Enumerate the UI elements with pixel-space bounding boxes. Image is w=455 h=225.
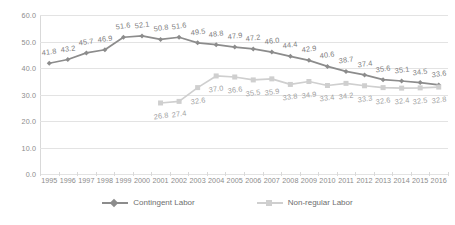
y-axis-tick-label: 0.0 bbox=[26, 170, 36, 179]
data-point-marker bbox=[418, 85, 423, 90]
diamond-marker-icon bbox=[110, 198, 118, 206]
x-axis-ticks: 1995199619971998199920002001200220032004… bbox=[40, 176, 448, 190]
x-axis-tick-label: 2002 bbox=[171, 176, 187, 185]
data-point-marker bbox=[399, 86, 404, 91]
data-point-marker bbox=[325, 83, 330, 88]
data-point-marker bbox=[158, 37, 163, 42]
data-point-marker bbox=[418, 80, 423, 85]
data-point-label: 32.5 bbox=[412, 96, 428, 107]
data-point-marker bbox=[158, 100, 163, 105]
data-point-marker bbox=[195, 85, 200, 90]
data-point-label: 37.4 bbox=[357, 59, 373, 70]
data-point-marker bbox=[214, 42, 219, 47]
x-axis-tick-label: 2008 bbox=[282, 176, 298, 185]
data-point-label: 49.5 bbox=[190, 26, 206, 37]
x-axis-tickmark bbox=[411, 172, 412, 176]
data-point-marker bbox=[399, 78, 404, 83]
data-point-marker bbox=[214, 73, 219, 78]
x-axis-tickmark bbox=[448, 172, 449, 176]
x-axis-tick-label: 2001 bbox=[152, 176, 168, 185]
data-point-label: 47.2 bbox=[245, 33, 261, 44]
legend-swatch bbox=[257, 198, 283, 207]
legend-item[interactable]: Non-regular Labor bbox=[257, 198, 353, 207]
x-axis-tickmark bbox=[59, 172, 60, 176]
x-axis-tick-label: 1997 bbox=[78, 176, 94, 185]
x-axis-tickmark bbox=[337, 172, 338, 176]
x-axis-tick-label: 1999 bbox=[115, 176, 131, 185]
data-point-marker bbox=[325, 64, 330, 69]
x-axis-tick-label: 2014 bbox=[394, 176, 410, 185]
data-point-marker bbox=[232, 75, 237, 80]
x-axis-tick-label: 2012 bbox=[356, 176, 372, 185]
data-point-marker bbox=[177, 35, 182, 40]
data-point-marker bbox=[251, 46, 256, 51]
y-axis-tick-label: 50.0 bbox=[22, 37, 36, 46]
data-point-label: 34.9 bbox=[301, 89, 317, 100]
legend-item[interactable]: Contingent Labor bbox=[102, 198, 194, 207]
data-point-marker bbox=[362, 83, 367, 88]
x-axis-tickmark bbox=[188, 172, 189, 176]
data-point-marker bbox=[288, 82, 293, 87]
data-point-label: 43.2 bbox=[60, 43, 76, 54]
x-axis-tick-label: 2011 bbox=[338, 176, 354, 185]
data-point-marker bbox=[195, 40, 200, 45]
x-axis-tickmark bbox=[263, 172, 264, 176]
data-point-marker bbox=[65, 57, 70, 62]
data-point-label: 33.6 bbox=[431, 69, 447, 80]
y-axis-tick-label: 10.0 bbox=[22, 143, 36, 152]
data-point-marker bbox=[381, 85, 386, 90]
x-axis-tickmark bbox=[355, 172, 356, 176]
x-axis-tickmark bbox=[96, 172, 97, 176]
x-axis-tick-label: 2010 bbox=[319, 176, 335, 185]
x-axis-tickmark bbox=[170, 172, 171, 176]
x-axis-tick-label: 2003 bbox=[190, 176, 206, 185]
x-axis-tick-label: 2016 bbox=[431, 176, 447, 185]
legend-label: Non-regular Labor bbox=[288, 199, 353, 207]
x-axis-tick-label: 2004 bbox=[208, 176, 224, 185]
x-axis-tickmark bbox=[151, 172, 152, 176]
chart-legend: Contingent LaborNon-regular Labor bbox=[0, 198, 455, 207]
y-axis-tick-label: 20.0 bbox=[22, 117, 36, 126]
data-point-marker bbox=[362, 72, 367, 77]
x-axis-tickmark bbox=[225, 172, 226, 176]
square-marker-icon bbox=[266, 200, 272, 206]
data-point-label: 35.1 bbox=[394, 65, 410, 76]
data-point-marker bbox=[47, 61, 52, 66]
data-point-label: 32.8 bbox=[431, 95, 447, 106]
data-point-marker bbox=[381, 77, 386, 82]
data-point-label: 36.6 bbox=[227, 85, 243, 96]
x-axis-tick-label: 2000 bbox=[134, 176, 150, 185]
plot-area: 0.010.020.030.040.050.060.0 41.843.245.7… bbox=[40, 15, 448, 174]
x-axis-tickmark bbox=[40, 172, 41, 176]
x-axis-tickmark bbox=[281, 172, 282, 176]
data-point-label: 26.8 bbox=[153, 111, 169, 122]
data-point-marker bbox=[84, 50, 89, 55]
data-point-label: 48.8 bbox=[208, 28, 224, 39]
x-axis-tick-label: 2015 bbox=[412, 176, 428, 185]
data-point-marker bbox=[251, 77, 256, 82]
x-axis-tickmark bbox=[114, 172, 115, 176]
data-point-marker bbox=[269, 76, 274, 81]
line-chart: 0.010.020.030.040.050.060.0 41.843.245.7… bbox=[0, 0, 455, 225]
x-axis-tick-label: 2009 bbox=[301, 176, 317, 185]
x-axis-tickmark bbox=[244, 172, 245, 176]
data-point-label: 33.3 bbox=[357, 93, 373, 104]
data-point-label: 47.9 bbox=[227, 31, 243, 42]
y-axis-tick-label: 40.0 bbox=[22, 64, 36, 73]
data-point-label: 35.6 bbox=[375, 63, 391, 74]
legend-label: Contingent Labor bbox=[133, 199, 194, 207]
x-axis-tick-label: 1998 bbox=[97, 176, 113, 185]
data-point-marker bbox=[306, 79, 311, 84]
x-axis-tickmark bbox=[300, 172, 301, 176]
y-axis-tick-label: 60.0 bbox=[22, 11, 36, 20]
x-axis-tick-label: 1996 bbox=[60, 176, 76, 185]
x-axis-tickmark bbox=[392, 172, 393, 176]
data-point-marker bbox=[288, 54, 293, 59]
x-axis-tickmark bbox=[207, 172, 208, 176]
data-point-label: 34.5 bbox=[412, 66, 428, 77]
data-point-label: 45.7 bbox=[78, 37, 94, 48]
data-point-label: 32.6 bbox=[375, 95, 391, 106]
legend-swatch bbox=[102, 198, 128, 207]
data-point-label: 46.0 bbox=[264, 36, 280, 47]
x-axis-tickmark bbox=[429, 172, 430, 176]
